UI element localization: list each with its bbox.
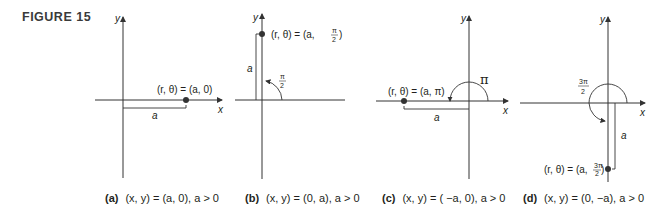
svg-text:2: 2: [280, 82, 284, 89]
polar-point: [259, 31, 265, 37]
caption-d: (d)(x, y) = (0, −a), a > 0: [523, 192, 644, 204]
point-label: (r, θ) = (a,: [271, 29, 315, 40]
panel-a-diagram: y x (r, θ) = (a, 0) a: [95, 13, 224, 178]
y-axis-label: y: [114, 13, 121, 24]
distance-label: a: [434, 112, 440, 123]
svg-text:2: 2: [332, 36, 336, 43]
y-axis-label: y: [599, 14, 606, 25]
y-axis-label: y: [252, 12, 259, 23]
svg-text:): ): [601, 164, 604, 175]
polar-diagrams: y x (r, θ) = (a, 0) a y (r, θ) = (a, π 2…: [0, 0, 667, 218]
caption-a: (a)(x, y) = (a, 0), a > 0: [105, 192, 219, 204]
distance-label: a: [621, 130, 627, 141]
svg-text:π: π: [332, 27, 337, 34]
svg-text:2: 2: [581, 88, 585, 95]
caption-b: (b)(x, y) = (0, a), a > 0: [245, 192, 360, 204]
svg-text:): ): [339, 29, 342, 40]
panel-b-diagram: y (r, θ) = (a, π 2 ) a π 2: [235, 12, 345, 179]
polar-point: [183, 97, 189, 103]
x-axis-label: x: [502, 105, 509, 116]
caption-c: (c)(x, y) = ( −a, 0), a > 0: [382, 192, 505, 204]
point-label: (r, θ) = (a,: [544, 164, 588, 175]
x-axis-label: x: [639, 107, 646, 118]
distance-label: a: [152, 110, 158, 121]
point-label: (r, θ) = (a, π): [388, 86, 445, 97]
polar-point: [605, 166, 611, 172]
distance-label: a: [247, 63, 253, 74]
panel-d-diagram: y x 3π 2 (r, θ) = (a, 3π 2 ) a: [520, 14, 646, 182]
point-label: (r, θ) = (a, 0): [157, 84, 212, 95]
panel-c-diagram: y x (r, θ) = (a, π) π a: [376, 13, 509, 179]
y-axis-label: y: [460, 13, 467, 24]
x-axis-label: x: [217, 104, 224, 115]
polar-point: [401, 98, 407, 104]
svg-text:2: 2: [595, 170, 599, 177]
angle-label: π: [280, 73, 285, 80]
angle-label: π: [480, 72, 489, 87]
angle-label: 3π: [579, 78, 588, 85]
